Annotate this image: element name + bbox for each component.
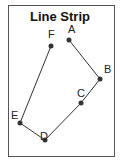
point-label-d: D bbox=[40, 130, 48, 142]
point-label-c: C bbox=[77, 87, 85, 99]
point-a bbox=[67, 38, 72, 43]
point-b bbox=[98, 77, 103, 82]
diagram-canvas: ABCDEF bbox=[0, 0, 120, 163]
point-c bbox=[79, 101, 84, 106]
point-f bbox=[49, 44, 54, 49]
point-label-e: E bbox=[11, 109, 18, 121]
point-e bbox=[18, 121, 23, 126]
point-label-f: F bbox=[48, 28, 55, 40]
line-strip bbox=[20, 40, 100, 140]
point-label-a: A bbox=[68, 23, 76, 35]
point-label-b: B bbox=[104, 63, 111, 75]
